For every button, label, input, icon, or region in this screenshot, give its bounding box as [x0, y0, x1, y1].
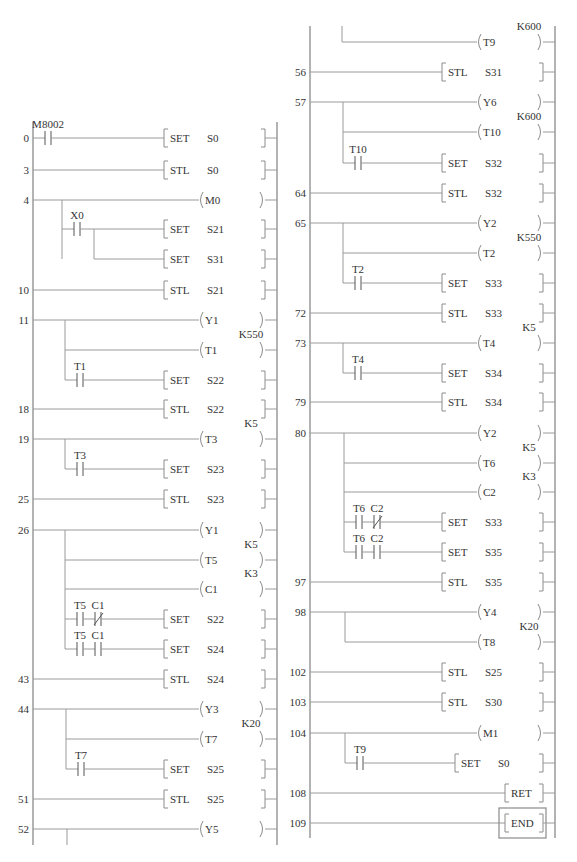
instruction-op: SET [170, 763, 190, 775]
instruction-operand: S22 [207, 374, 224, 386]
timer-preset: K5 [522, 441, 536, 453]
instruction-op: SET [448, 546, 468, 558]
bracket-left [164, 610, 168, 628]
bracket-right [539, 184, 543, 202]
no-contact[interactable] [74, 222, 80, 236]
rung [310, 425, 555, 441]
bracket-right [539, 364, 543, 382]
no-contact[interactable] [356, 545, 362, 559]
bracket-right [261, 790, 265, 808]
no-contact[interactable] [77, 462, 83, 476]
instruction-operand: S32 [485, 157, 502, 169]
bracket-left [442, 573, 446, 591]
coil-operand: T8 [483, 636, 496, 648]
instruction-op: SET [448, 516, 468, 528]
bracket-left [455, 754, 459, 772]
coil-operand: T6 [483, 457, 496, 469]
timer-preset: K550 [517, 231, 542, 243]
instruction-operand: S30 [485, 696, 503, 708]
bracket-left [442, 693, 446, 711]
instruction-operand: S33 [485, 516, 503, 528]
instruction-op: SET [170, 253, 190, 265]
bracket-right [261, 250, 265, 268]
no-contact[interactable] [374, 545, 380, 559]
coil-operand: Y1 [205, 524, 218, 536]
instruction-operand: S34 [485, 396, 503, 408]
bracket-right [539, 754, 543, 772]
rung [310, 304, 555, 322]
step-number: 98 [295, 606, 307, 618]
step-number: 79 [295, 396, 307, 408]
coil-paren-left [201, 701, 204, 717]
instruction-op: SET [448, 157, 468, 169]
coil-paren-right [260, 192, 263, 208]
coil-paren-right [260, 431, 263, 447]
coil-operand: T10 [483, 126, 501, 138]
contact-label: T9 [354, 743, 367, 755]
rung [33, 522, 277, 538]
coil-paren-left [479, 725, 482, 741]
bracket-right [539, 513, 543, 531]
no-contact[interactable] [355, 366, 361, 380]
rung [343, 124, 555, 140]
bracket-left [164, 400, 168, 418]
bracket-left [442, 274, 446, 292]
bracket-left [164, 129, 168, 147]
no-contact[interactable] [77, 612, 83, 626]
step-number: 57 [295, 96, 307, 108]
bracket-left [164, 250, 168, 268]
coil-paren-right [538, 245, 541, 261]
step-number: 26 [18, 524, 30, 536]
instruction-op: SET [170, 223, 190, 235]
coil-paren-right [538, 634, 541, 650]
bracket-left [442, 513, 446, 531]
no-contact[interactable] [77, 373, 83, 387]
no-contact[interactable] [77, 642, 83, 656]
bracket-left [442, 304, 446, 322]
bracket-left [164, 281, 168, 299]
coil-operand: Y6 [483, 96, 497, 108]
coil-paren-right [260, 821, 263, 837]
no-contact[interactable] [357, 756, 363, 770]
rung [33, 790, 277, 808]
bracket-right [539, 393, 543, 411]
coil-operand: T4 [483, 337, 496, 349]
step-number: 52 [18, 823, 29, 835]
column-right [310, 26, 555, 838]
rung [345, 754, 555, 772]
instruction-op: STL [448, 187, 468, 199]
rung [310, 335, 555, 351]
step-number: 4 [24, 194, 30, 206]
instruction-operand: S33 [485, 277, 503, 289]
coil-paren-left [201, 821, 204, 837]
no-contact[interactable] [45, 131, 51, 145]
bracket-left [164, 161, 168, 179]
contact-label: X0 [70, 209, 84, 221]
rung [33, 129, 277, 147]
contact-label: C2 [371, 502, 384, 514]
instruction-op: END [511, 817, 534, 829]
coil-operand: T1 [205, 344, 217, 356]
bracket-right [261, 490, 265, 508]
rung [310, 184, 555, 202]
no-contact[interactable] [95, 642, 101, 656]
step-number: 3 [24, 164, 30, 176]
no-contact[interactable] [356, 515, 362, 529]
no-contact[interactable] [355, 156, 361, 170]
step-number: 10 [18, 284, 30, 296]
instruction-op: SET [170, 132, 190, 144]
contact-label: C1 [92, 629, 105, 641]
no-contact[interactable] [355, 276, 361, 290]
coil-paren-left [479, 455, 482, 471]
step-number: 102 [290, 666, 307, 678]
coil-paren-right [538, 335, 541, 351]
coil-paren-left [201, 581, 204, 597]
coil-operand: Y2 [483, 217, 496, 229]
instruction-op: STL [170, 673, 190, 685]
coil-paren-left [201, 522, 204, 538]
rung [33, 431, 277, 447]
coil-operand: C1 [205, 583, 218, 595]
no-contact[interactable] [78, 762, 84, 776]
coil-paren-right [538, 425, 541, 441]
coil-paren-left [479, 634, 482, 650]
